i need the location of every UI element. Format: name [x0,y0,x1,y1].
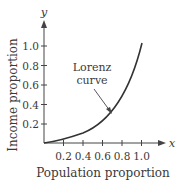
lorenz-chart: 0.2 0.4 0.6 0.8 1.0 0.2 0.4 0.6 0.8 1.0 … [0,0,181,185]
x-tick-labels: 0.2 0.4 0.6 0.8 1.0 [55,150,150,162]
y-tick-label: 0.4 [22,99,39,111]
annotation-arrow-line [94,89,110,111]
y-tick-label: 0.8 [22,60,39,72]
y-tick-labels: 0.2 0.4 0.6 0.8 1.0 [22,40,39,130]
lorenz-curve [44,43,142,143]
x-axis-variable: x [169,136,176,150]
y-axis-variable: y [40,5,48,19]
x-axis-title: Population proportion [36,166,170,180]
x-axis-arrow-icon [158,140,166,146]
y-axis-title: Income proportion [6,38,20,152]
x-tick-label: 0.8 [114,150,131,162]
x-tick-label: 0.4 [75,150,92,162]
annotation: Lorenz curve [73,61,112,114]
x-tick-label: 0.6 [94,150,111,162]
y-tick-label: 1.0 [22,40,39,52]
y-axis-arrow-icon [41,20,47,28]
annotation-line-2: curve [76,74,107,87]
y-tick-label: 0.2 [22,118,39,130]
x-tick-label: 1.0 [133,150,150,162]
annotation-line-1: Lorenz [73,61,112,74]
annotation-arrowhead-icon [106,107,112,114]
y-tick-label: 0.6 [22,79,39,91]
x-tick-label: 0.2 [55,150,72,162]
